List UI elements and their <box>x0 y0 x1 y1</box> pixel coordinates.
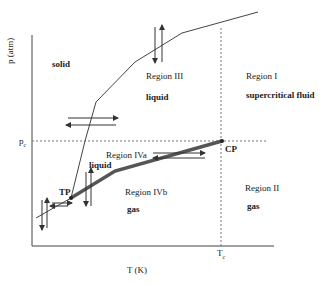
phase-diagram: p (atm) pc Tc T (K) solid Region III liq… <box>0 0 328 287</box>
region1-label: Region I <box>246 72 277 81</box>
region4a-label: Region IVa <box>106 151 147 160</box>
region2-phase: gas <box>247 202 260 211</box>
triple-point-label: TP <box>59 188 71 197</box>
tc-label: Tc <box>217 249 225 260</box>
diagram-graphics <box>0 0 328 287</box>
region4b-phase: gas <box>127 205 140 214</box>
sublimation-curve <box>36 198 71 218</box>
y-axis-label: p (atm) <box>6 38 15 64</box>
critical-point-dot <box>220 139 224 143</box>
region2-label: Region II <box>245 184 279 193</box>
pc-subscript: c <box>24 142 27 148</box>
x-axis-label: T (K) <box>127 266 147 275</box>
region3-phase: liquid <box>146 93 169 102</box>
pc-label: pc <box>19 137 26 148</box>
region4a-phase: liquid <box>89 161 112 170</box>
melting-curve <box>71 12 258 198</box>
tc-subscript: c <box>223 254 226 260</box>
solid-label: solid <box>52 60 70 69</box>
region1-phase: supercritical fluid <box>246 91 315 100</box>
region3-label: Region III <box>146 72 183 81</box>
region4b-label: Region IVb <box>125 188 167 197</box>
critical-point-label: CP <box>225 145 237 154</box>
